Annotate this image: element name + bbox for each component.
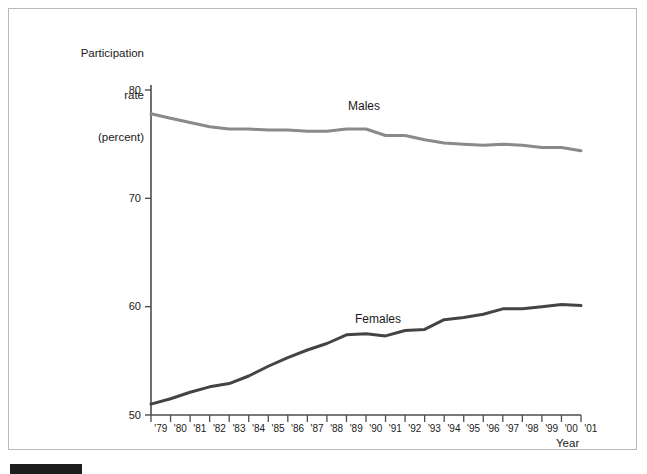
y-axis-ticks bbox=[145, 90, 151, 415]
series-label-males: Males bbox=[348, 100, 380, 113]
footer-black-bar bbox=[10, 464, 82, 474]
y-tick-label: 80 bbox=[115, 85, 141, 96]
data-series-group bbox=[151, 114, 581, 404]
y-tick-label: 60 bbox=[115, 301, 141, 312]
y-tick-label: 70 bbox=[115, 193, 141, 204]
y-axis-caption-line-1: Participation bbox=[40, 46, 144, 60]
axes bbox=[151, 85, 581, 415]
x-tick-label: '01 bbox=[580, 423, 602, 434]
y-tick-label: 50 bbox=[115, 410, 141, 421]
series-line-males bbox=[151, 114, 581, 151]
x-axis-caption: Year bbox=[556, 437, 579, 450]
y-axis-caption-line-3: (percent) bbox=[40, 130, 144, 144]
chart-figure: Participation rate (percent) 80706050 '7… bbox=[0, 0, 647, 474]
x-axis-ticks bbox=[151, 415, 581, 422]
series-label-females: Females bbox=[355, 313, 401, 326]
